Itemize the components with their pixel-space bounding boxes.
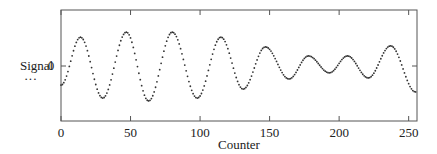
x-tick-label: 250 xyxy=(399,125,419,140)
legend-marker: ··· xyxy=(24,71,37,86)
y-tick-label-0: 0 xyxy=(48,58,55,73)
x-axis-label: Counter xyxy=(218,137,261,152)
signal-chart: 050100150200250 Signal ··· 0 Counter xyxy=(0,0,437,154)
signal-series xyxy=(60,31,416,102)
x-tick-label: 50 xyxy=(124,125,137,140)
plot-frame xyxy=(61,10,417,121)
x-tick-label: 0 xyxy=(58,125,65,140)
x-tick-label: 100 xyxy=(190,125,210,140)
x-tick-label: 150 xyxy=(260,125,280,140)
x-tick-label: 200 xyxy=(329,125,349,140)
